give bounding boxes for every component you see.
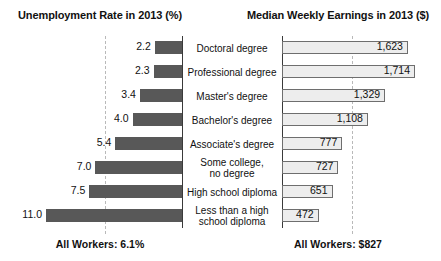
unemployment-value-label: 11.0 (0, 208, 42, 220)
chart-row: 5.4Associate's degree777 (0, 132, 441, 156)
category-label: High school diploma (183, 180, 281, 204)
earnings-value-label: 1,329 (282, 88, 380, 100)
left-panel-title: Unemployment Rate in 2013 (%) (0, 9, 200, 21)
unemployment-value-label: 7.5 (0, 184, 85, 196)
category-label: Associate's degree (183, 132, 281, 156)
earnings-value-label: 777 (282, 136, 337, 148)
unemployment-bar (115, 137, 182, 150)
right-panel-title: Median Weekly Earnings in 2013 ($) (238, 9, 438, 21)
education-earnings-unemployment-chart: Unemployment Rate in 2013 (%) Median Wee… (0, 0, 441, 261)
unemployment-value-label: 2.2 (0, 40, 151, 52)
earnings-value-label: 472 (282, 208, 314, 220)
unemployment-value-label: 3.4 (0, 88, 136, 100)
unemployment-value-label: 2.3 (0, 64, 150, 76)
category-label: Professional degree (183, 60, 281, 84)
right-summary-label: All Workers: $827 (238, 238, 438, 250)
category-label: Doctoral degree (183, 36, 281, 60)
category-label: Bachelor's degree (183, 108, 281, 132)
category-label: Less than a highschool diploma (183, 204, 281, 228)
category-label: Some college,no degree (183, 156, 281, 180)
unemployment-bar (133, 113, 182, 126)
chart-row: 7.5High school diploma651 (0, 180, 441, 204)
earnings-value-label: 651 (282, 184, 328, 196)
chart-row: 7.0Some college,no degree727 (0, 156, 441, 180)
chart-row: 3.4Master's degree1,329 (0, 84, 441, 108)
left-summary-label: All Workers: 6.1% (0, 238, 200, 250)
unemployment-bar (89, 185, 182, 198)
unemployment-bar (140, 89, 182, 102)
unemployment-bar (154, 65, 182, 78)
chart-row: 4.0Bachelor's degree1,108 (0, 108, 441, 132)
unemployment-value-label: 5.4 (0, 136, 111, 148)
chart-row: 11.0Less than a highschool diploma472 (0, 204, 441, 228)
earnings-value-label: 1,623 (282, 40, 403, 52)
chart-row: 2.3Professional degree1,714 (0, 60, 441, 84)
earnings-value-label: 1,714 (282, 64, 410, 76)
unemployment-bar (95, 161, 182, 174)
chart-row: 2.2Doctoral degree1,623 (0, 36, 441, 60)
earnings-value-label: 727 (282, 160, 333, 172)
unemployment-bar (46, 209, 182, 222)
unemployment-value-label: 4.0 (0, 112, 129, 124)
unemployment-value-label: 7.0 (0, 160, 91, 172)
earnings-value-label: 1,108 (282, 112, 363, 124)
unemployment-bar (155, 41, 182, 54)
category-label: Master's degree (183, 84, 281, 108)
